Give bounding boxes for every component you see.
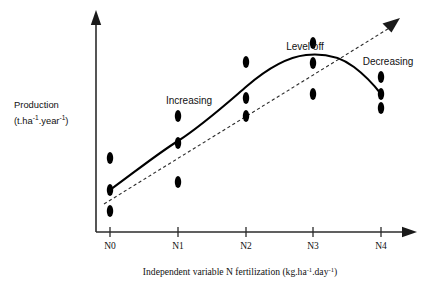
- x-axis-arrow-icon: [402, 227, 417, 237]
- response-curve: [110, 55, 381, 190]
- data-point: [243, 56, 249, 68]
- annotation-level-off: Level off: [286, 41, 324, 52]
- chart-canvas: N0 N1 N2 N3 N4: [0, 0, 428, 289]
- y-caption-prefix: (t.ha: [14, 115, 33, 126]
- data-point-group: [107, 37, 384, 217]
- data-point: [107, 152, 113, 164]
- x-tick-label-n2: N2: [240, 241, 252, 251]
- x-caption-prefix: Independent variable N fertilization (kg…: [143, 266, 308, 278]
- data-point: [310, 57, 316, 69]
- data-point: [107, 184, 113, 196]
- x-tick-label-n1: N1: [172, 241, 184, 251]
- trend-line-arrow-icon: [383, 18, 401, 33]
- x-axis-tick-labels: N0 N1 N2 N3 N4: [104, 241, 387, 251]
- data-point: [107, 205, 113, 217]
- x-tick-label-n4: N4: [375, 241, 387, 251]
- annotation-group: Increasing Level off Decreasing: [166, 41, 413, 106]
- x-caption-suffix: ): [334, 266, 337, 278]
- data-point: [310, 88, 316, 100]
- data-point: [243, 110, 249, 122]
- x-caption-mid: .day: [312, 266, 328, 277]
- data-point: [378, 71, 384, 83]
- y-axis-label-line2: (t.ha-1.year-1): [14, 111, 106, 127]
- y-axis-label-line1: Production: [14, 98, 106, 111]
- y-caption-suffix: ): [65, 115, 68, 126]
- axis-group: [91, 10, 417, 237]
- data-point: [378, 102, 384, 114]
- annotation-increasing: Increasing: [166, 95, 212, 106]
- figure-container: N0 N1 N2 N3 N4: [0, 0, 428, 289]
- data-point: [175, 110, 181, 122]
- y-caption-mid: .year: [39, 115, 60, 126]
- data-point: [175, 176, 181, 188]
- linear-trend-group: [104, 18, 400, 204]
- data-point: [243, 92, 249, 104]
- y-axis-arrow-icon: [91, 10, 101, 25]
- data-point: [378, 88, 384, 100]
- data-point: [175, 137, 181, 149]
- x-axis-caption: Independent variable N fertilization (kg…: [143, 266, 337, 279]
- x-tick-label-n3: N3: [307, 241, 319, 251]
- annotation-decreasing: Decreasing: [363, 56, 414, 67]
- y-axis-label: Production (t.ha-1.year-1): [14, 98, 106, 127]
- x-tick-label-n0: N0: [104, 241, 116, 251]
